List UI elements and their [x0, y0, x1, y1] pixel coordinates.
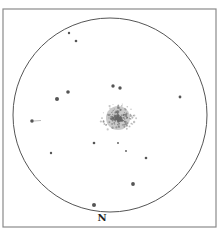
star-marker — [92, 203, 96, 207]
star-marker — [117, 142, 119, 144]
star-marker — [179, 96, 182, 99]
globular-cluster — [100, 104, 137, 131]
star-marker — [145, 157, 148, 160]
star-marker — [50, 152, 52, 154]
star-marker — [93, 142, 96, 145]
star-marker — [75, 40, 78, 43]
north-direction-label: N — [94, 212, 110, 224]
star-finder-chart: N — [0, 0, 222, 236]
star-marker — [111, 84, 114, 87]
star-marker — [131, 182, 135, 186]
star-marker — [68, 32, 70, 34]
star-marker — [66, 90, 70, 94]
star-marker — [118, 86, 121, 89]
chart-canvas — [0, 0, 222, 236]
star-trail — [34, 121, 41, 122]
star-marker — [30, 119, 34, 123]
star-marker — [125, 150, 127, 152]
field-stars — [30, 32, 181, 207]
star-marker — [55, 97, 59, 101]
